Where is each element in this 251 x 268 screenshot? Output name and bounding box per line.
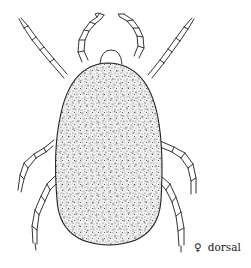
view-label: dorsal — [208, 241, 241, 253]
leg-2-right — [148, 18, 194, 78]
leg-4-left — [32, 176, 57, 250]
leg-2-left — [19, 18, 67, 78]
mite-illustration — [0, 0, 251, 268]
figure-caption: ♀dorsal — [194, 241, 241, 253]
capitulum — [100, 50, 122, 64]
leg-1-right — [118, 14, 144, 58]
female-symbol-icon: ♀ — [194, 241, 202, 253]
leg-1-left — [78, 13, 104, 62]
leg-3-right — [160, 141, 196, 194]
leg-4-right — [160, 176, 184, 252]
leg-3-left — [18, 140, 54, 192]
